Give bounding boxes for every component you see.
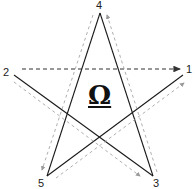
point-label-2: 2 [3,67,9,78]
line-2-3 [14,75,153,176]
point-label-1: 1 [186,64,192,75]
point-label-4: 4 [96,0,102,11]
pentagram-diagram: 4 1 2 5 3 Ω [0,0,195,189]
point-label-3: 3 [153,178,159,189]
arrow-5-to-1 [56,83,184,178]
point-label-5: 5 [38,178,44,189]
arrow-2-to-3 [14,82,140,176]
line-1-5 [47,75,183,176]
omega-symbol: Ω [88,82,111,108]
arrow-4-to-5 [42,15,93,170]
